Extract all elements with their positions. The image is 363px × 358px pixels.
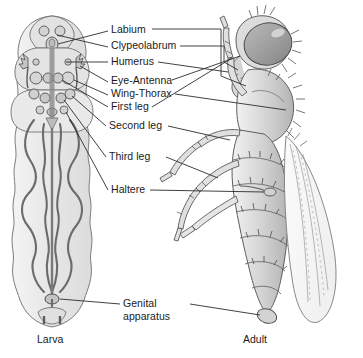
second-leg-disc-left: [29, 89, 39, 99]
wing-thorax-disc-left: [30, 72, 42, 84]
label-humerus: Humerus: [111, 56, 154, 68]
label-genital-apparatus: Genital apparatus: [123, 297, 193, 322]
label-eye-antenna: Eye-Antenna: [111, 75, 172, 87]
haltere-disc-left: [36, 106, 44, 114]
label-wing-thorax: Wing-Thorax: [111, 88, 172, 100]
wing-thorax-disc-right: [62, 72, 74, 84]
third-leg-disc-right: [56, 93, 66, 103]
anatomy-figure: Labium Clypeolabrum Humerus Eye-Antenna …: [0, 0, 363, 358]
label-clypeolabrum: Clypeolabrum: [111, 40, 176, 52]
label-third-leg: Third leg: [109, 151, 150, 163]
clypeolabrum-disc-left: [39, 26, 49, 36]
adult-genital-apparatus: [255, 306, 278, 325]
leg-bristles: [177, 41, 232, 214]
wing: [284, 136, 336, 323]
larva-drawing: [11, 16, 93, 327]
clypeolabrum-disc-right: [55, 26, 65, 36]
caption-adult: Adult: [243, 333, 267, 345]
label-first-leg: First leg: [111, 101, 149, 113]
label-second-leg: Second leg: [109, 120, 162, 132]
label-labium: Labium: [111, 24, 146, 36]
caption-larva: Larva: [37, 333, 63, 345]
third-leg-disc-left: [40, 93, 50, 103]
humerus-disc-left: [33, 59, 39, 65]
label-haltere: Haltere: [111, 184, 145, 196]
second-leg: [160, 130, 240, 183]
